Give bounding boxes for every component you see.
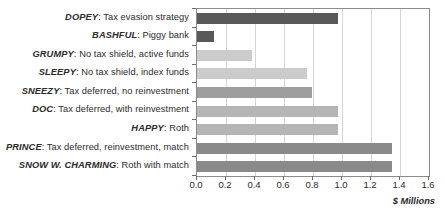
category-label: DOPEY: Tax evasion strategy (0, 8, 193, 27)
bar[interactable] (197, 68, 307, 79)
bar[interactable] (197, 106, 338, 117)
bars-layer (197, 9, 429, 176)
category-axis-labels: DOPEY: Tax evasion strategyBASHFUL: Pigg… (0, 8, 193, 175)
bar-slot (197, 139, 429, 158)
x-axis-tick-label: 0.4 (247, 180, 260, 190)
bar[interactable] (197, 13, 338, 24)
category-label-name: SLEEPY (39, 68, 76, 77)
bar-slot (197, 9, 429, 28)
x-axis-tick-label: 0.0 (189, 180, 202, 190)
category-label-desc: : Piggy bank (137, 31, 189, 40)
category-label-name: PRINCE (6, 143, 42, 152)
category-label-name: BASHFUL (92, 31, 137, 40)
category-label: GRUMPY: No tax shield, active funds (0, 45, 193, 64)
x-axis-tick-label: 1.4 (392, 180, 405, 190)
category-label-name: HAPPY (131, 124, 164, 133)
category-label-desc: : Roth (164, 124, 189, 133)
category-label: BASHFUL: Piggy bank (0, 27, 193, 46)
plot-area (196, 8, 430, 177)
bar-slot (197, 46, 429, 65)
category-label-name: DOC (32, 105, 53, 114)
bar[interactable] (197, 124, 338, 135)
category-label-desc: : Roth with match (116, 161, 189, 170)
category-label-desc: : No tax shield, active funds (74, 50, 189, 59)
category-label-name: SNEEZY (22, 87, 60, 96)
bar-slot (197, 102, 429, 121)
bar-chart: DOPEY: Tax evasion strategyBASHFUL: Pigg… (0, 0, 445, 215)
category-label-desc: : Tax deferred, with reinvestment (53, 105, 189, 114)
category-label: DOC: Tax deferred, with reinvestment (0, 101, 193, 120)
category-label-name: SNOW W. CHARMING (19, 161, 116, 170)
x-axis-tick-label: 0.6 (276, 180, 289, 190)
x-axis-tick-label: 0.2 (218, 180, 231, 190)
x-axis-tick-label: 0.8 (305, 180, 318, 190)
category-label: SNOW W. CHARMING: Roth with match (0, 157, 193, 176)
bar-slot (197, 28, 429, 47)
category-label: HAPPY: Roth (0, 119, 193, 138)
x-axis-tick-label: 1.0 (334, 180, 347, 190)
category-label-desc: : No tax shield, index funds (76, 68, 189, 77)
category-label: PRINCE: Tax deferred, reinvestment, matc… (0, 138, 193, 157)
x-axis-title: $ Millions (393, 196, 435, 206)
bar-slot (197, 65, 429, 84)
category-label: SNEEZY: Tax deferred, no reinvestment (0, 82, 193, 101)
bar[interactable] (197, 161, 392, 172)
bar[interactable] (197, 87, 312, 98)
category-label: SLEEPY: No tax shield, index funds (0, 64, 193, 83)
category-label-desc: : Tax evasion strategy (98, 13, 189, 22)
bar[interactable] (197, 143, 392, 154)
bar[interactable] (197, 50, 252, 61)
x-axis-tick-labels: 0.00.20.40.60.81.01.21.41.6 (196, 180, 428, 194)
category-label-name: DOPEY (65, 13, 98, 22)
category-label-desc: : Tax deferred, reinvestment, match (42, 143, 189, 152)
bar-slot (197, 83, 429, 102)
category-label-name: GRUMPY (32, 50, 73, 59)
x-axis-tick-label: 1.6 (421, 180, 434, 190)
bar[interactable] (197, 31, 214, 42)
bar-slot (197, 120, 429, 139)
x-axis-tick-label: 1.2 (363, 180, 376, 190)
category-label-desc: : Tax deferred, no reinvestment (59, 87, 189, 96)
bar-slot (197, 158, 429, 177)
